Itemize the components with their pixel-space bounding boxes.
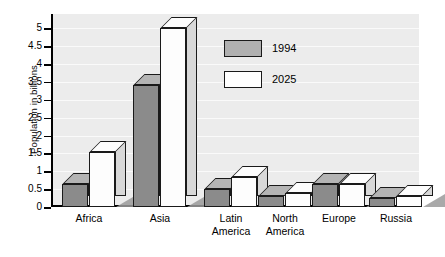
y-axis-tick [44, 100, 51, 102]
y-axis-tick [44, 136, 51, 138]
y-axis-tick [44, 64, 51, 66]
bar-2025-russia [396, 196, 422, 207]
bar-2025-north-america [285, 193, 311, 207]
bar-front-face [231, 177, 257, 207]
gridline [51, 100, 419, 101]
y-axis-tick-label: 3.5 [0, 77, 42, 87]
y-axis-tick-label: 4.5 [0, 41, 42, 51]
y-axis-tick-label: 5 [0, 23, 42, 33]
bar-1994-latin-america [204, 189, 230, 207]
bar-1994-russia [369, 198, 395, 207]
y-axis-tick-label: 0.5 [0, 184, 42, 194]
y-axis-tick [44, 207, 51, 209]
y-axis-tick [44, 189, 51, 191]
gridline [51, 64, 419, 65]
bar-1994-north-america [258, 196, 284, 207]
y-axis-tick-label: 2 [0, 131, 42, 141]
y-axis-tick [44, 171, 51, 173]
y-axis-tick [44, 46, 51, 48]
bar-front-face [369, 198, 395, 207]
bar-2025-asia [160, 28, 186, 207]
category-label-line1: Russia [351, 212, 441, 225]
gridline [51, 118, 419, 119]
y-axis-tick [44, 82, 51, 84]
y-axis-tick [44, 153, 51, 155]
bar-front-face [133, 85, 159, 207]
bar-1994-europe [312, 184, 338, 207]
y-axis-tick-label: 4 [0, 59, 42, 69]
bar-front-face [339, 184, 365, 207]
legend-swatch-1994 [224, 40, 262, 57]
y-axis-tick-label: 2.5 [0, 113, 42, 123]
bar-front-face [312, 184, 338, 207]
y-axis-tick [44, 118, 51, 120]
bar-front-face [285, 193, 311, 207]
y-axis-tick-label: 1.5 [0, 148, 42, 158]
y-axis-tick-label: 0 [0, 202, 42, 212]
y-axis-tick [44, 28, 51, 30]
gridline [51, 136, 419, 137]
bar-front-face [160, 28, 186, 207]
y-axis-tick-label: 1 [0, 166, 42, 176]
legend-label-1994: 1994 [272, 42, 296, 54]
bar-2025-africa [89, 152, 115, 207]
legend-swatch-2025 [224, 71, 262, 88]
bar-front-face [258, 196, 284, 207]
bar-front-face [89, 152, 115, 207]
y-axis-line [51, 14, 53, 207]
bar-1994-africa [62, 184, 88, 207]
bar-front-face [204, 189, 230, 207]
bar-side-face [186, 17, 197, 196]
bar-front-face [62, 184, 88, 207]
y-axis-tick-label: 3 [0, 95, 42, 105]
bar-2025-latin-america [231, 177, 257, 207]
bar-1994-asia [133, 85, 159, 207]
category-label-line2: America [240, 225, 330, 238]
category-label-russia: Russia [351, 212, 441, 225]
bar-2025-europe [339, 184, 365, 207]
legend-label-2025: 2025 [272, 73, 296, 85]
bar-front-face [396, 196, 422, 207]
gridline [51, 28, 419, 29]
